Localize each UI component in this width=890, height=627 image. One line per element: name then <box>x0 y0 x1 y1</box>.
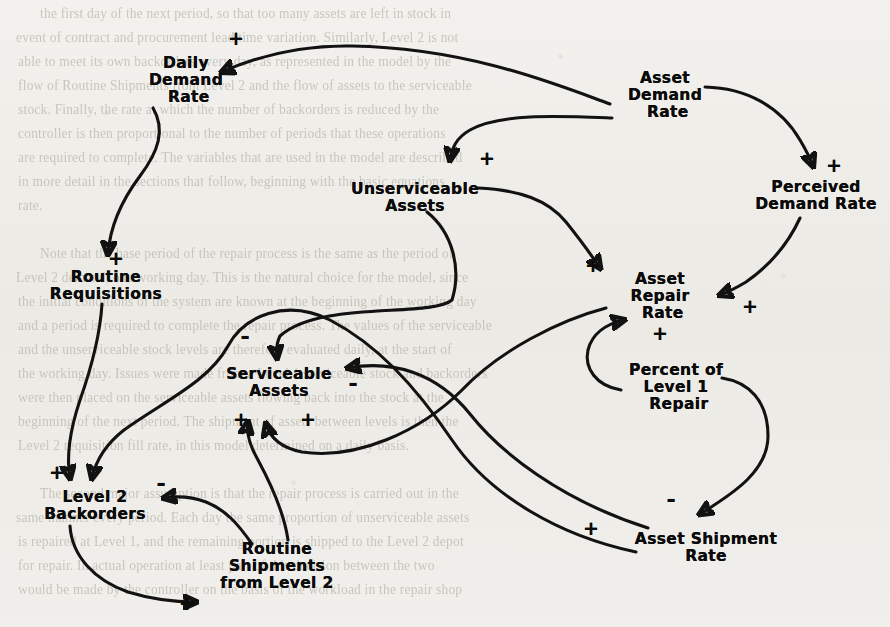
link-asset-shipment-rate-to-level-2-backorders <box>92 310 636 552</box>
node-percent-of-level-1-repair[interactable]: Percent of Level 1 Repair <box>629 362 723 413</box>
polarity-plus-unserviceable-assets: + <box>479 149 495 168</box>
link-perceived-demand-rate-to-asset-repair-rate <box>720 218 800 295</box>
link-routine-requisitions-to-level-2-backorders <box>68 304 102 478</box>
link-asset-demand-rate-to-perceived-demand-rate <box>705 87 813 166</box>
polarity-minus-serviceable-assets-top: - <box>240 327 249 346</box>
link-percent-of-level-1-repair-to-asset-repair-rate <box>587 320 624 390</box>
link-asset-demand-rate-to-unserviceable-assets <box>450 116 612 160</box>
node-asset-shipment-rate[interactable]: Asset Shipment Rate <box>635 531 777 565</box>
polarity-plus-serviceable-assets-right: + <box>300 410 316 429</box>
polarity-plus-asset-repair-rate-from-unserviceable: + <box>585 256 601 275</box>
polarity-plus-perceived-demand-rate: + <box>826 156 842 175</box>
polarity-minus-level-2-backorders: - <box>156 474 165 493</box>
polarity-plus-routine-shipments: + <box>179 594 195 613</box>
node-asset-repair-rate[interactable]: Asset Repair Rate <box>630 271 689 322</box>
link-routine-shipments-to-serviceable-assets <box>247 422 288 540</box>
node-routine-requisitions[interactable]: Routine Requisitions <box>50 269 162 303</box>
link-level-2-backorders-to-routine-shipments <box>70 526 196 602</box>
diagram-canvas: the first day of the next period, so tha… <box>0 0 890 627</box>
link-routine-shipments-to-level-2-backorders <box>164 497 252 544</box>
link-unserviceable-assets-to-asset-repair-rate <box>478 188 600 268</box>
polarity-plus-asset-repair-rate-from-perceived: + <box>742 297 758 316</box>
node-level-2-backorders[interactable]: Level 2 Backorders <box>44 489 146 523</box>
node-serviceable-assets[interactable]: Serviceable Assets <box>226 366 332 400</box>
node-routine-shipments-from-level-2[interactable]: Routine Shipments from Level 2 <box>220 541 333 592</box>
polarity-plus-level-2-backorders: + <box>49 463 65 482</box>
polarity-plus-serviceable-assets-left: + <box>233 410 249 429</box>
link-asset-shipment-rate-to-serviceable-assets <box>348 366 648 528</box>
node-daily-demand-rate[interactable]: Daily Demand Rate <box>149 55 223 106</box>
node-asset-demand-rate[interactable]: Asset Demand Rate <box>628 70 702 121</box>
link-daily-demand-rate-to-routine-requisitions <box>108 108 159 254</box>
link-unserviceable-assets-to-serviceable-assets <box>276 212 455 358</box>
node-unserviceable-assets[interactable]: Unserviceable Assets <box>351 181 479 215</box>
polarity-plus-asset-shipment-rate: + <box>583 519 599 538</box>
polarity-plus-daily-demand-rate: + <box>228 29 244 48</box>
polarity-plus-asset-repair-rate-from-percent: + <box>652 324 668 343</box>
polarity-plus-routine-requisitions: + <box>108 249 124 268</box>
link-asset-demand-rate-to-daily-demand-rate <box>222 46 610 104</box>
polarity-minus-serviceable-assets-right: - <box>348 374 357 393</box>
polarity-minus-asset-shipment-rate: - <box>666 490 675 509</box>
node-perceived-demand-rate[interactable]: Perceived Demand Rate <box>755 179 877 213</box>
